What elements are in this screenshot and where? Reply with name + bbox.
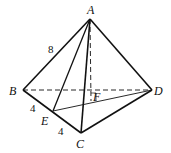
point-label-F: F — [92, 90, 101, 104]
edge-CD — [81, 90, 152, 133]
length-label-AB: 8 — [48, 43, 54, 55]
segment-ED — [53, 90, 152, 111]
length-label-EC: 4 — [58, 125, 64, 137]
vertex-label-C: C — [76, 137, 85, 151]
edge-AC — [81, 19, 90, 133]
length-label-BE: 4 — [30, 102, 36, 114]
vertex-label-B: B — [9, 84, 17, 98]
vertex-label-A: A — [86, 3, 95, 17]
altitude-AF — [90, 19, 91, 101]
edge-AB — [23, 19, 90, 90]
edge-AD — [90, 19, 152, 90]
vertex-label-D: D — [153, 84, 163, 98]
point-label-E: E — [40, 114, 49, 128]
tetrahedron-diagram: A B C D E F 8 4 4 — [0, 0, 171, 153]
